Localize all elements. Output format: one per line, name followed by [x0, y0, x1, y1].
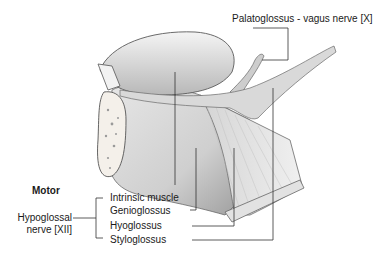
label-hypoglossal-line2: nerve [XII] [14, 224, 72, 236]
label-palatoglossus: Palatoglossus - vagus nerve [X] [232, 13, 373, 25]
label-hyoglossus: Hyoglossus [110, 220, 162, 232]
label-hypoglossal-line1: Hypoglossal [14, 212, 72, 224]
label-intrinsic-muscle: Intrinsic muscle [110, 192, 179, 204]
label-styloglossus: Styloglossus [110, 234, 166, 246]
label-motor: Motor [32, 185, 60, 197]
label-genioglossus: Genioglossus [110, 205, 171, 217]
